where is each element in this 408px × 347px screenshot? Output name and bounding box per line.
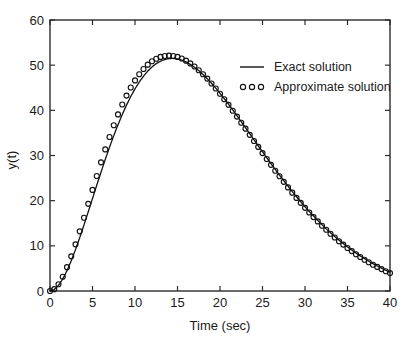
x-axis-ticks-bottom	[50, 286, 390, 291]
legend-circle-glyph	[249, 84, 254, 89]
legend-circle-glyph	[258, 84, 263, 89]
x-tick-label: 25	[255, 295, 269, 310]
data-point-marker	[107, 135, 112, 140]
y-tick-label: 50	[30, 58, 44, 73]
legend-circles-sample	[240, 84, 263, 89]
y-axis-ticks-left	[50, 20, 55, 291]
x-tick-label: 10	[128, 295, 142, 310]
y-tick-label: 30	[30, 148, 44, 163]
chart-svg: 0510152025303540 0102030405060 Time (sec…	[0, 0, 408, 347]
x-tick-label: 5	[89, 295, 96, 310]
y-axis-tick-labels: 0102030405060	[30, 13, 44, 299]
x-tick-label: 20	[213, 295, 227, 310]
y-axis-ticks-right	[385, 20, 390, 291]
data-point-marker	[99, 160, 104, 165]
data-point-marker	[133, 78, 138, 83]
data-point-marker	[137, 72, 142, 77]
x-tick-label: 0	[46, 295, 53, 310]
data-point-marker	[124, 93, 129, 98]
data-point-marker	[141, 66, 146, 71]
legend-label-exact: Exact solution	[274, 60, 352, 74]
data-point-marker	[90, 187, 95, 192]
y-tick-label: 60	[30, 13, 44, 28]
x-tick-label: 40	[383, 295, 397, 310]
x-tick-label: 30	[298, 295, 312, 310]
chart-legend: Exact solution Approximate solution	[240, 60, 391, 94]
y-tick-label: 0	[37, 284, 44, 299]
y-tick-label: 20	[30, 193, 44, 208]
data-point-marker	[120, 102, 125, 107]
data-point-marker	[94, 173, 99, 178]
data-point-marker	[86, 201, 91, 206]
x-tick-label: 15	[170, 295, 184, 310]
x-axis-ticks-top	[50, 20, 390, 25]
data-point-marker	[103, 147, 108, 152]
legend-label-approximate: Approximate solution	[274, 80, 391, 94]
y-axis-label: y(t)	[4, 151, 19, 170]
data-point-marker	[111, 123, 116, 128]
x-axis-tick-labels: 0510152025303540	[46, 295, 397, 310]
data-point-marker	[128, 85, 133, 90]
chart-figure: 0510152025303540 0102030405060 Time (sec…	[0, 0, 408, 347]
y-tick-label: 40	[30, 103, 44, 118]
legend-circle-glyph	[240, 84, 245, 89]
y-tick-label: 10	[30, 238, 44, 253]
data-point-marker	[116, 112, 121, 117]
x-axis-label: Time (sec)	[190, 318, 251, 333]
x-tick-label: 35	[340, 295, 354, 310]
